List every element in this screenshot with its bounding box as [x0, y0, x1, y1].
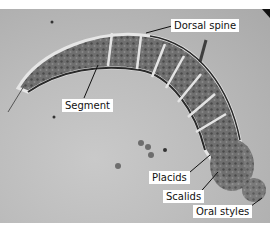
label-segment: Segment: [62, 99, 113, 112]
label-placids: Placids: [149, 171, 190, 184]
label-dorsal-spine: Dorsal spine: [171, 19, 239, 32]
micrograph: [0, 9, 270, 223]
label-scalids: Scalids: [163, 190, 204, 203]
label-oral-styles: Oral styles: [193, 205, 252, 218]
organism-drawing: [0, 9, 270, 223]
